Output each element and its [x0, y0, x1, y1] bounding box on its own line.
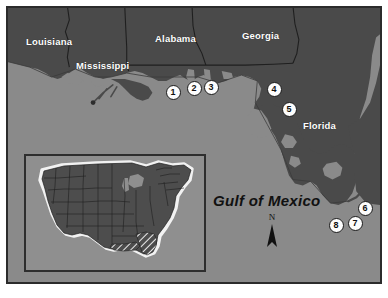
site-marker-8[interactable]: 8	[329, 218, 344, 233]
site-marker-2[interactable]: 2	[187, 81, 202, 96]
site-marker-1[interactable]: 1	[166, 85, 181, 100]
site-marker-7[interactable]: 7	[348, 216, 363, 231]
pensacola-bay	[204, 69, 211, 80]
site-marker-4[interactable]: 4	[267, 82, 282, 97]
louisiana-bays	[61, 73, 83, 85]
north-arrow-letter: N	[264, 212, 280, 222]
north-arrow: N	[264, 214, 280, 248]
site-marker-3[interactable]: 3	[204, 80, 219, 95]
mississippi-delta	[111, 79, 153, 101]
inset-locator-map	[24, 154, 206, 272]
delta-tip-island	[91, 100, 96, 105]
water-body-label-gulf-of-mexico: Gulf of Mexico	[213, 192, 321, 209]
site-marker-6[interactable]: 6	[358, 201, 373, 216]
inset-us-map	[26, 156, 204, 270]
north-arrow-glyph	[264, 224, 280, 248]
delta-passes	[95, 85, 117, 101]
site-marker-5[interactable]: 5	[282, 102, 297, 117]
map-figure: Louisiana Mississippi Alabama Georgia Fl…	[6, 6, 382, 284]
